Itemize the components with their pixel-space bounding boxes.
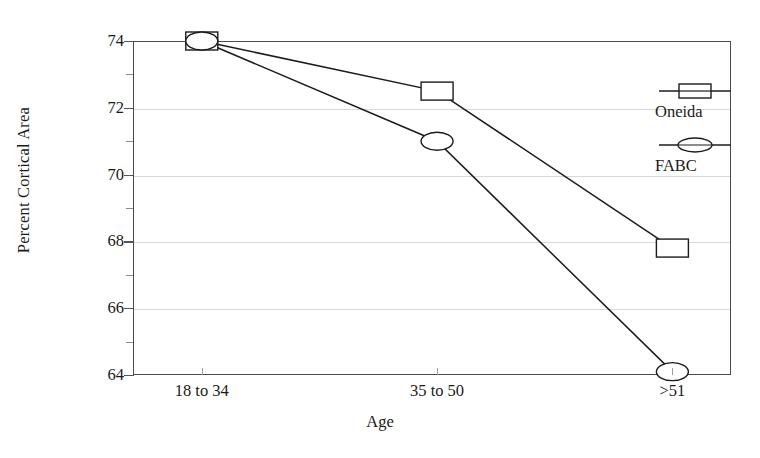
y-axis-title: Percent Cortical Area	[14, 0, 34, 380]
ellipse-marker-icon	[655, 134, 760, 156]
y-tick-label: 74	[0, 31, 124, 51]
legend-entry-oneida: Oneida	[655, 80, 760, 122]
data-point-oneida-2	[656, 239, 688, 257]
y-tick-label: 66	[0, 298, 124, 318]
legend-entry-fabc: FABC	[655, 134, 760, 176]
x-tick-mark	[202, 368, 203, 375]
y-tick-label: 70	[0, 165, 124, 185]
x-tick-label: 35 to 50	[410, 381, 464, 401]
x-tick-label: 18 to 34	[175, 381, 229, 401]
line-chart: Percent Cortical Area 646668707274 18 to…	[0, 0, 760, 458]
x-tick-label: >51	[659, 381, 685, 401]
square-marker-icon	[655, 80, 760, 102]
data-series-layer	[133, 41, 731, 375]
data-point-fabc-1	[421, 132, 453, 150]
y-tick-mark	[124, 375, 134, 376]
y-tick-label: 72	[0, 98, 124, 118]
x-tick-mark	[437, 368, 438, 375]
data-point-oneida-1	[421, 82, 453, 100]
x-tick-mark	[672, 368, 673, 375]
x-axis-title: Age	[0, 412, 760, 432]
legend-label-fabc: FABC	[655, 156, 760, 176]
data-point-fabc-0	[186, 32, 218, 50]
legend-label-oneida: Oneida	[655, 102, 760, 122]
y-tick-label: 64	[0, 365, 124, 385]
y-tick-label: 68	[0, 231, 124, 251]
chart-legend: Oneida FABC	[655, 80, 760, 188]
